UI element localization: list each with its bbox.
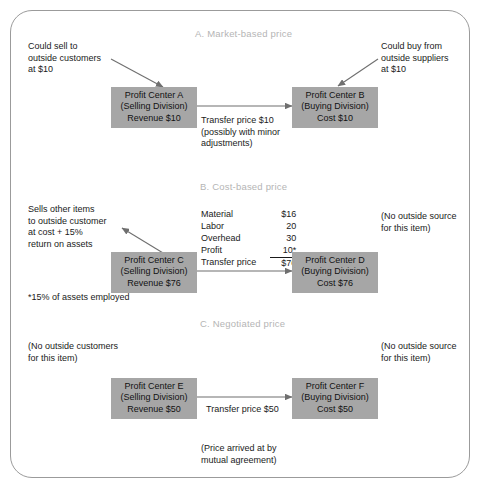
note-a-left: Could sell to outside customers at $10 [28,41,101,76]
cost-label-labor: Labor [201,221,270,233]
profit-center-b-division: (Buying Division) [292,101,378,112]
cost-row-labor: Labor 20 [201,221,296,233]
profit-center-a-box: Profit Center A (Selling Division) Reven… [111,87,197,128]
profit-center-e-amount: Revenue $50 [111,404,197,415]
profit-center-c-box: Profit Center C (Selling Division) Reven… [111,252,197,293]
profit-center-d-division: (Buying Division) [292,266,378,277]
note-a-right: Could buy from outside suppliers at $10 [381,41,449,76]
profit-center-c-division: (Selling Division) [111,266,197,277]
profit-center-f-amount: Cost $50 [292,404,378,415]
section-title-a: A. Market-based price [195,28,292,39]
profit-center-d-name: Profit Center D [292,255,378,266]
cost-row-transfer-price: Transfer price $76 [201,257,296,269]
cost-buildup-body: Material $16 Labor 20 Overhead 30 Profit… [201,209,296,270]
note-c-right: (No outside source for this item) [381,341,457,364]
cost-row-material: Material $16 [201,209,296,221]
cost-value-labor: 20 [270,221,296,233]
footnote-b-assets: *15% of assets employed [28,292,130,304]
profit-center-d-amount: Cost $76 [292,278,378,289]
profit-center-e-name: Profit Center E [111,381,197,392]
cost-row-profit: Profit 10* [201,245,296,257]
cost-label-material: Material [201,209,270,221]
note-b-left: Sells other items to outside customer at… [28,204,107,250]
profit-center-a-name: Profit Center A [111,90,197,101]
cost-row-overhead: Overhead 30 [201,233,296,245]
note-b-right: (No outside source for this item) [381,211,457,234]
cost-label-profit: Profit [201,245,270,257]
profit-center-f-name: Profit Center F [292,381,378,392]
cost-value-material: $16 [270,209,296,221]
profit-center-a-division: (Selling Division) [111,101,197,112]
profit-center-e-division: (Selling Division) [111,392,197,403]
note-c-mutual-agreement: (Price arrived at by mutual agreement) [201,443,277,466]
profit-center-b-amount: Cost $10 [292,113,378,124]
profit-center-e-box: Profit Center E (Selling Division) Reven… [111,378,197,419]
profit-center-c-amount: Revenue $76 [111,278,197,289]
note-c-left: (No outside customers for this item) [28,341,118,364]
profit-center-d-box: Profit Center D (Buying Division) Cost $… [292,252,378,293]
cost-label-overhead: Overhead [201,233,270,245]
profit-center-b-box: Profit Center B (Buying Division) Cost $… [292,87,378,128]
profit-center-b-name: Profit Center B [292,90,378,101]
profit-center-c-name: Profit Center C [111,255,197,266]
section-title-b: B. Cost-based price [200,181,287,192]
section-title-c: C. Negotiated price [200,318,285,329]
note-c-transfer-price: Transfer price $50 [206,404,279,416]
profit-center-f-division: (Buying Division) [292,392,378,403]
cost-buildup-table: Material $16 Labor 20 Overhead 30 Profit… [201,209,296,270]
profit-center-a-amount: Revenue $10 [111,113,197,124]
transfer-pricing-diagram: A. Market-based price Could sell to outs… [0,0,484,493]
profit-center-f-box: Profit Center F (Buying Division) Cost $… [292,378,378,419]
note-a-transfer-price: Transfer price $10 (possibly with minor … [201,115,280,150]
cost-label-transfer-price: Transfer price [201,257,270,269]
cost-value-overhead: 30 [270,233,296,245]
